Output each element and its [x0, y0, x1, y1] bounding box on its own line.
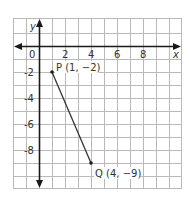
x-tick-label: 4: [88, 49, 94, 60]
point-q: [89, 161, 93, 165]
x-tick-label: 6: [114, 49, 120, 60]
y-tick-label: -2: [24, 67, 34, 78]
grid: [13, 18, 182, 189]
origin-label: 0: [29, 49, 35, 60]
y-axis-up-arrow-icon: [36, 19, 43, 27]
y-axis: [36, 19, 43, 188]
y-tick-label: -8: [24, 145, 34, 156]
x-axis-left-arrow-icon: [14, 43, 22, 50]
y-tick-label: -6: [24, 119, 34, 130]
coordinate-plane: y x 0 2 4 6 8 -2 -4 -6 -8 P (1, −2) Q (4…: [0, 0, 189, 205]
point-p-label: P (1, −2): [56, 62, 101, 73]
point-q-label: Q (4, −9): [95, 168, 141, 179]
x-axis-label: x: [172, 49, 179, 60]
x-tick-label: 2: [62, 49, 68, 60]
y-tick-label: -4: [24, 93, 34, 104]
y-axis-down-arrow-icon: [36, 180, 43, 188]
y-axis-label: y: [29, 21, 37, 32]
point-p: [50, 70, 54, 74]
x-tick-label: 8: [140, 49, 146, 60]
